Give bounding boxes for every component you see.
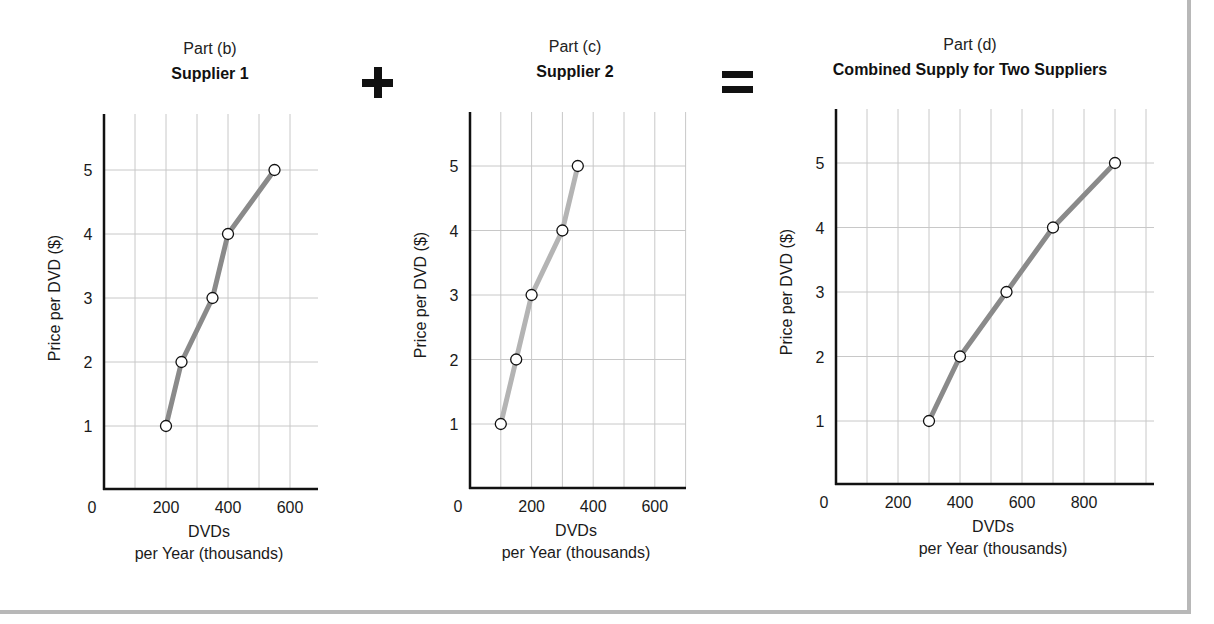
y-axis-label: Price per DVD ($)	[412, 232, 429, 358]
x-axis-label: DVDs	[188, 523, 230, 540]
data-point-marker	[269, 165, 280, 176]
x-tick-label: 800	[1071, 494, 1098, 511]
y-tick-label: 1	[816, 413, 825, 430]
data-point-marker	[924, 416, 935, 427]
x-axis-label: DVDs	[972, 518, 1014, 535]
data-point-marker	[1001, 287, 1012, 298]
chart-panel-d: 123450200400600800DVDsper Year (thousand…	[778, 109, 1154, 557]
x-tick-label: 400	[215, 499, 242, 516]
data-point-marker	[207, 293, 218, 304]
chart-panel-b: 123450200400600DVDsper Year (thousands)P…	[46, 114, 318, 562]
data-point-marker	[161, 421, 172, 432]
x-tick-label: 0	[454, 498, 463, 515]
data-point-marker	[176, 357, 187, 368]
x-tick-label: 200	[518, 498, 545, 515]
y-tick-label: 3	[84, 290, 93, 307]
y-tick-label: 2	[450, 352, 459, 369]
charts-canvas: 123450200400600DVDsper Year (thousands)P…	[0, 0, 1214, 624]
y-axis-label: Price per DVD ($)	[46, 235, 63, 361]
data-point-marker	[572, 161, 583, 172]
chart-panel-c: 123450200400600DVDsper Year (thousands)P…	[412, 112, 686, 561]
x-axis-label-units: per Year (thousands)	[135, 545, 284, 562]
x-tick-label: 600	[1009, 494, 1036, 511]
x-tick-label: 400	[580, 498, 607, 515]
y-axis-label: Price per DVD ($)	[778, 229, 795, 355]
x-tick-label: 200	[885, 494, 912, 511]
data-point-marker	[526, 290, 537, 301]
x-axis-label-units: per Year (thousands)	[502, 544, 651, 561]
data-point-marker	[495, 419, 506, 430]
data-point-marker	[511, 354, 522, 365]
data-point-marker	[1048, 222, 1059, 233]
y-tick-label: 1	[84, 418, 93, 435]
y-tick-label: 5	[84, 162, 93, 179]
x-tick-label: 0	[88, 499, 97, 516]
x-tick-label: 600	[277, 499, 304, 516]
data-point-marker	[955, 351, 966, 362]
x-tick-label: 0	[820, 494, 829, 511]
y-tick-label: 4	[84, 226, 93, 243]
y-tick-label: 4	[816, 220, 825, 237]
x-tick-label: 200	[153, 499, 180, 516]
y-tick-label: 5	[450, 158, 459, 175]
y-tick-label: 3	[816, 284, 825, 301]
x-tick-label: 400	[947, 494, 974, 511]
y-tick-label: 2	[816, 349, 825, 366]
y-tick-label: 3	[450, 287, 459, 304]
y-tick-label: 1	[450, 416, 459, 433]
data-point-marker	[223, 229, 234, 240]
y-tick-label: 5	[816, 155, 825, 172]
x-axis-label: DVDs	[555, 522, 597, 539]
y-tick-label: 2	[84, 354, 93, 371]
y-tick-label: 4	[450, 223, 459, 240]
data-point-marker	[557, 225, 568, 236]
x-axis-label-units: per Year (thousands)	[919, 540, 1068, 557]
x-tick-label: 600	[641, 498, 668, 515]
data-point-marker	[1110, 158, 1121, 169]
